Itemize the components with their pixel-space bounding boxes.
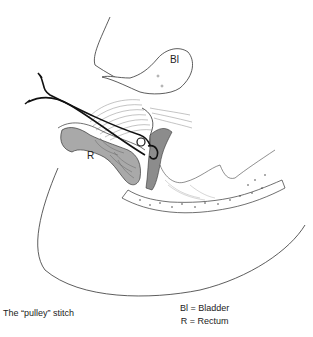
needle-end-upper (38, 73, 42, 78)
bladder (102, 49, 193, 94)
pelvic-tissue-hatching (88, 100, 192, 140)
legend-item-bladder: Bl = Bladder (180, 302, 229, 315)
suture-loop (137, 138, 145, 146)
legend: Bl = Bladder R = Rectum (180, 302, 229, 328)
anatomy-diagram: Bl R (0, 0, 313, 337)
perineum-fine-lines (165, 180, 215, 200)
legend-item-rectum: R = Rectum (180, 315, 229, 328)
bladder-label: Bl (170, 54, 179, 65)
rectum-label: R (87, 150, 94, 161)
figure-caption: The “pulley” stitch (3, 308, 74, 318)
perineum-contour (160, 150, 275, 183)
sphincter-muscle (146, 128, 172, 190)
rectum (61, 128, 141, 185)
